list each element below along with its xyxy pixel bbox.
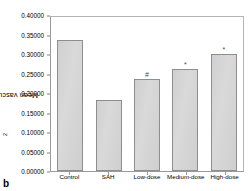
- y-axis-tick-mark: [47, 113, 50, 114]
- significance-marker: *: [222, 46, 225, 53]
- x-axis-tick-mark: [69, 172, 70, 175]
- bar-slot: [51, 17, 89, 171]
- bar-low-dose: #: [134, 79, 160, 171]
- y-axis-tick-mark: [47, 152, 50, 153]
- x-axis-tick-mark: [147, 172, 148, 175]
- bar-series: #**: [51, 17, 243, 171]
- y-axis-title-superscript: 2: [2, 133, 8, 136]
- y-axis-tick-mark: [47, 172, 50, 173]
- y-axis-tick-label: 0.20000: [21, 91, 44, 97]
- x-axis-tick-mark: [186, 172, 187, 175]
- y-axis-tick-label: 0.05000: [21, 149, 44, 155]
- y-axis-tick-mark: [47, 94, 50, 95]
- bar-slot: #: [128, 17, 166, 171]
- y-axis-tick-label: 0.10000: [21, 130, 44, 136]
- significance-marker: #: [145, 71, 149, 78]
- y-axis-tick-label: 0.15000: [21, 110, 44, 116]
- figure-panel-b: b Mean vascular area (mm2) 0.400000.3500…: [0, 0, 251, 191]
- y-axis-tick-mark: [47, 55, 50, 56]
- y-axis-tick-mark: [47, 35, 50, 36]
- y-axis-tick-label: 0.35000: [21, 32, 44, 38]
- y-axis-title: Mean vascular area (mm2): [0, 16, 14, 174]
- bar-sah: [96, 100, 122, 171]
- y-axis-tick-mark: [47, 16, 50, 17]
- bar-medium-dose: *: [172, 69, 198, 171]
- bar-high-dose: *: [211, 54, 237, 171]
- bar-slot: *: [166, 17, 204, 171]
- x-axis-tick-labels: ControlSAHLow-doseMedium-doseHigh-dose: [50, 174, 244, 188]
- bar-control: [57, 40, 83, 171]
- x-axis-tick-mark: [225, 172, 226, 175]
- significance-marker: *: [184, 61, 187, 68]
- y-axis-tick-mark: [47, 74, 50, 75]
- y-axis-tick-labels: 0.400000.350000.300000.250000.200000.150…: [14, 0, 46, 191]
- plot-area: #**: [50, 16, 244, 172]
- panel-label: b: [3, 179, 9, 189]
- x-axis-tick-mark: [108, 172, 109, 175]
- bar-slot: [89, 17, 127, 171]
- y-axis-tick-label: 0.30000: [21, 52, 44, 58]
- y-axis-tick-label: 0.25000: [21, 71, 44, 77]
- y-axis-tick-mark: [47, 133, 50, 134]
- y-axis-tick-label: 0.40000: [21, 13, 44, 19]
- bar-slot: *: [205, 17, 243, 171]
- y-axis-tick-label: 0.00000: [21, 169, 44, 175]
